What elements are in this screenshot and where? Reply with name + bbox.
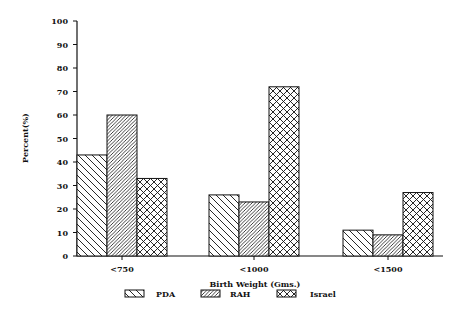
bars — [77, 87, 433, 256]
legend-item-israel: Israel — [277, 289, 336, 299]
legend-swatch — [277, 290, 296, 297]
bar-israel-0 — [137, 178, 167, 256]
y-tick-label: 10 — [57, 228, 69, 238]
bar-chart: 0102030405060708090100 <750<1000<1500Bir… — [0, 0, 457, 315]
legend-label: Israel — [310, 289, 336, 299]
y-tick-label: 70 — [57, 87, 69, 97]
legend-swatch — [201, 290, 220, 297]
y-axis-title: Percent(%) — [20, 113, 30, 163]
bar-israel-2 — [403, 193, 433, 256]
x-tick-label: <1500 — [374, 264, 403, 274]
x-tick-label: <750 — [110, 264, 134, 274]
bar-rah-2 — [373, 235, 403, 256]
y-tick-label: 90 — [57, 40, 69, 50]
bar-rah-0 — [107, 115, 137, 256]
legend-item-pda: PDA — [125, 289, 176, 299]
bar-pda-0 — [77, 155, 107, 256]
legend-item-rah: RAH — [201, 289, 251, 299]
bar-rah-1 — [239, 202, 269, 256]
legend-label: PDA — [156, 289, 176, 299]
y-tick-label: 40 — [57, 157, 69, 167]
x-tick-label: <1000 — [240, 264, 269, 274]
legend-label: RAH — [230, 289, 251, 299]
bar-pda-2 — [343, 230, 373, 256]
y-tick-label: 100 — [51, 16, 68, 26]
y-tick-label: 0 — [62, 251, 68, 261]
bar-israel-1 — [269, 87, 299, 256]
y-tick-label: 80 — [57, 63, 69, 73]
y-tick-label: 50 — [57, 134, 69, 144]
x-axis-title: Birth Weight (Gms.) — [210, 279, 301, 289]
y-tick-label: 20 — [57, 204, 69, 214]
y-tick-label: 60 — [57, 110, 69, 120]
y-tick-label: 30 — [57, 181, 69, 191]
legend-swatch — [125, 290, 144, 297]
legend: PDARAHIsrael — [125, 289, 336, 299]
bar-pda-1 — [209, 195, 239, 256]
